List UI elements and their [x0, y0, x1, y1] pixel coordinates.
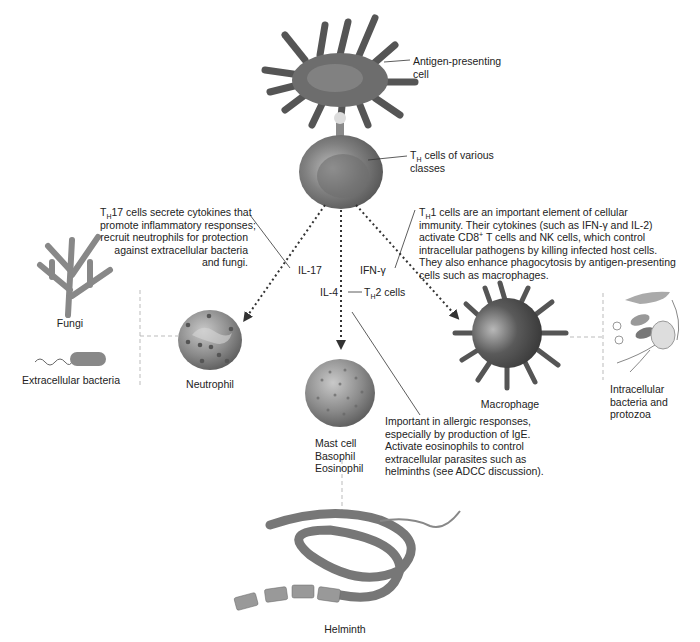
th17-annotation: TH17 cells secrete cytokines that promot… — [100, 206, 248, 269]
antigen-presenting-cell-icon — [265, 18, 415, 140]
fungi-label: Fungi — [35, 317, 105, 330]
neutrophil-icon — [178, 310, 242, 370]
macrophage-label: Macrophage — [475, 398, 545, 411]
mast-cell-icon — [305, 359, 375, 427]
mast-cell-label: Mast cell Basophil Eosinophil — [315, 437, 363, 475]
neutrophil-label: Neutrophil — [180, 378, 240, 391]
th1-annotation: TH1 cells are an important element of ce… — [419, 206, 676, 281]
intracellular-pathogens-label: Intracellular bacteria and protozoa — [610, 383, 668, 421]
macrophage-icon — [455, 283, 566, 388]
intracellular-pathogens-icon — [613, 292, 679, 372]
th-cell-label: TH cells of various classes — [410, 149, 494, 174]
th2-annotation: Important in allergic responses, especia… — [385, 415, 544, 478]
th2-label: TH2 cells — [364, 286, 405, 299]
helminth-icon — [234, 511, 460, 611]
extracellular-bacteria-label: Extracellular bacteria — [22, 374, 120, 387]
il17-label: IL-17 — [298, 264, 322, 277]
diagram-canvas — [0, 0, 700, 642]
helminth-label: Helminth — [315, 623, 375, 636]
extracellular-bacteria-icon — [35, 352, 106, 366]
apc-label: Antigen-presenting cell — [413, 55, 501, 80]
il4-label: IL-4 — [320, 286, 338, 299]
th-cell-icon — [299, 135, 383, 209]
ifng-label: IFN-γ — [360, 264, 386, 277]
